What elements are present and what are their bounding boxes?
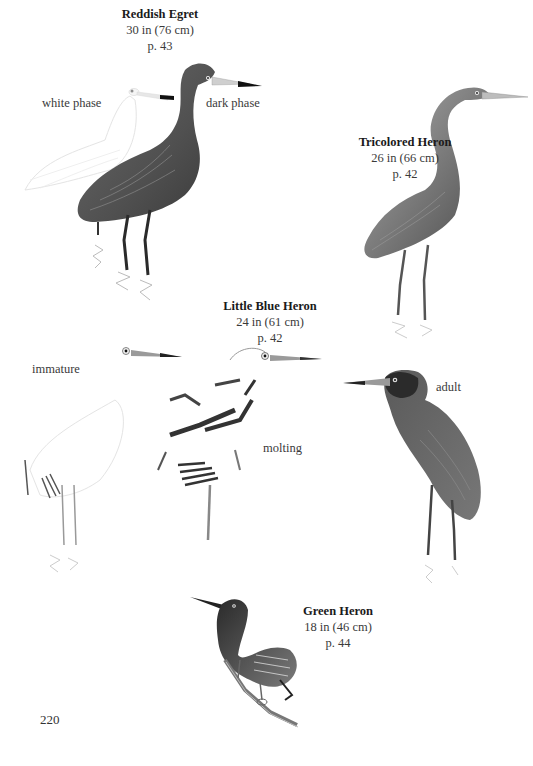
field-guide-plate: Reddish Egret 30 in (76 cm) p. 43 white …: [0, 0, 533, 766]
species-name: Little Blue Heron: [210, 298, 330, 314]
species-page-ref: p. 42: [345, 166, 465, 182]
species-size: 30 in (76 cm): [105, 22, 215, 38]
species-page-ref: p. 42: [210, 330, 330, 346]
species-size: 24 in (61 cm): [210, 314, 330, 330]
species-caption-tricolored-heron: Tricolored Heron 26 in (66 cm) p. 42: [345, 134, 465, 182]
species-page-ref: p. 44: [288, 635, 388, 651]
heron-illustration-perched-icon: [190, 597, 298, 727]
morph-label-dark-phase: dark phase: [206, 96, 260, 111]
species-size: 26 in (66 cm): [345, 150, 465, 166]
species-name: Reddish Egret: [105, 6, 215, 22]
heron-illustration-pale-icon: [25, 348, 182, 573]
species-name: Tricolored Heron: [345, 134, 465, 150]
species-size: 18 in (46 cm): [288, 619, 388, 635]
morph-label-white-phase: white phase: [42, 96, 101, 111]
heron-illustration-dark-icon: [364, 87, 528, 338]
heron-illustration-dark-icon: [343, 370, 481, 583]
species-name: Green Heron: [288, 603, 388, 619]
species-caption-green-heron: Green Heron 18 in (46 cm) p. 44: [288, 603, 388, 651]
species-caption-reddish-egret: Reddish Egret 30 in (76 cm) p. 43: [105, 6, 215, 54]
morph-label-immature: immature: [32, 362, 80, 377]
species-page-ref: p. 43: [105, 38, 215, 54]
page-number: 220: [40, 712, 60, 728]
species-caption-little-blue-heron: Little Blue Heron 24 in (61 cm) p. 42: [210, 298, 330, 346]
morph-label-adult: adult: [436, 380, 461, 395]
morph-label-molting: molting: [263, 441, 302, 456]
